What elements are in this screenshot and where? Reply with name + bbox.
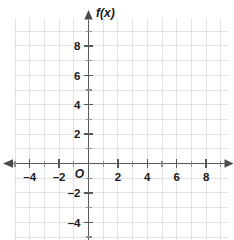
y-axis-tick-label: –4 [68, 217, 81, 229]
x-axis-tick-label: 6 [173, 171, 179, 183]
figure-background [0, 0, 234, 240]
x-axis-tick-label: –2 [53, 171, 66, 183]
x-axis-tick-label: 2 [115, 171, 121, 183]
x-axis-tick-label: 8 [203, 171, 210, 183]
origin-label: O [75, 167, 85, 181]
y-axis-tick-label: 8 [74, 40, 81, 52]
y-axis-tick-label: 6 [74, 70, 80, 82]
x-axis-tick-label: 4 [144, 171, 151, 183]
y-axis-tick-label: 2 [74, 128, 80, 140]
y-axis-tick-label: 4 [74, 99, 81, 111]
coordinate-grid-figure: –4–224688642–2–4 f(x) O [0, 0, 234, 240]
y-axis-label: f(x) [96, 6, 115, 20]
y-axis-tick-label: –2 [68, 187, 81, 199]
coordinate-plane-svg: –4–224688642–2–4 f(x) O [0, 0, 234, 240]
x-axis-tick-label: –4 [23, 171, 36, 183]
